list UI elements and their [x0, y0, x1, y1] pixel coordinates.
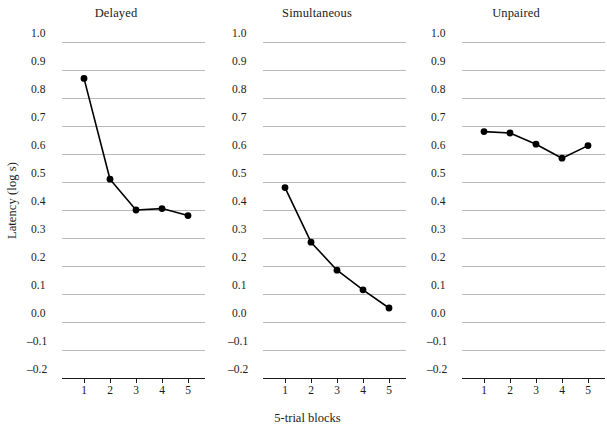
x-tick-label: 5	[580, 384, 596, 396]
data-point	[533, 141, 540, 148]
x-tick-label: 2	[303, 384, 319, 396]
data-point	[81, 75, 88, 82]
x-tick-label: 5	[381, 384, 397, 396]
x-tick-label: 3	[329, 384, 345, 396]
x-axis-label: 5-trial blocks	[0, 411, 607, 426]
x-tick-label: 4	[355, 384, 371, 396]
x-tick-label: 4	[554, 384, 570, 396]
data-point	[481, 128, 488, 135]
series-plot	[427, 30, 605, 385]
series-line	[285, 188, 389, 308]
data-point	[282, 184, 289, 191]
x-tick-label: 4	[154, 384, 170, 396]
x-tick-label: 1	[277, 384, 293, 396]
data-point	[133, 207, 140, 214]
series-line	[84, 78, 188, 215]
data-point	[559, 155, 566, 162]
x-tick-label: 3	[528, 384, 544, 396]
panel-title: Delayed	[27, 6, 205, 21]
panel-title: Unpaired	[427, 6, 605, 21]
plot-area: 1.00.90.80.70.60.50.40.30.20.10.0–0.1–0.…	[427, 30, 605, 385]
panel-simultaneous: Simultaneous1.00.90.80.70.60.50.40.30.20…	[228, 0, 406, 439]
data-point	[107, 176, 114, 183]
data-point	[386, 305, 393, 312]
series-plot	[228, 30, 406, 385]
data-point	[360, 286, 367, 293]
x-tick-label: 1	[76, 384, 92, 396]
x-tick-label: 2	[502, 384, 518, 396]
data-point	[308, 239, 315, 246]
y-axis-label: Latency (log s)	[2, 0, 24, 400]
plot-area: 1.00.90.80.70.60.50.40.30.20.10.0–0.1–0.…	[27, 30, 205, 385]
latency-multipanel-chart: Latency (log s) Delayed1.00.90.80.70.60.…	[0, 0, 607, 439]
panel-delayed: Delayed1.00.90.80.70.60.50.40.30.20.10.0…	[27, 0, 205, 439]
panel-unpaired: Unpaired1.00.90.80.70.60.50.40.30.20.10.…	[427, 0, 605, 439]
x-tick-label: 1	[476, 384, 492, 396]
data-point	[507, 130, 514, 137]
data-point	[585, 142, 592, 149]
plot-area: 1.00.90.80.70.60.50.40.30.20.10.0–0.1–0.…	[228, 30, 406, 385]
x-axis-label-text: 5-trial blocks	[274, 411, 340, 425]
data-point	[185, 212, 192, 219]
x-tick-label: 5	[180, 384, 196, 396]
data-point	[334, 267, 341, 274]
series-plot	[27, 30, 205, 385]
x-tick-label: 3	[128, 384, 144, 396]
y-axis-label-text: Latency (log s)	[6, 161, 21, 238]
panel-title: Simultaneous	[228, 6, 406, 21]
data-point	[159, 205, 166, 212]
x-tick-label: 2	[102, 384, 118, 396]
